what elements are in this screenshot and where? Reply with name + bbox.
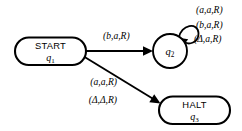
node-q1-state-subscript: 1	[51, 57, 55, 65]
node-q1-title: START	[35, 40, 66, 51]
node-q3-state-subscript: 3	[195, 116, 199, 124]
edge-label-q1-to-q3-first: (a,a,R)	[90, 76, 117, 88]
edge-q1-to-q3-arrowhead	[149, 94, 160, 103]
diagram-canvas: START q1 q2 HALT q3 (b,a,R) (a,a,R) (Δ,Δ…	[0, 0, 242, 131]
edge-label-q1-to-q3-second: (Δ,Δ,R)	[89, 94, 117, 106]
node-q3-title: HALT	[182, 99, 206, 110]
node-q3-halt[interactable]: HALT q3	[159, 97, 230, 125]
state-diagram: START q1 q2 HALT q3 (b,a,R) (a,a,R) (Δ,Δ…	[0, 0, 242, 131]
edge-label-q1-to-q2: (b,a,R)	[103, 30, 130, 42]
edge-label-q2-loop-first: (a,a,R)	[196, 4, 223, 16]
node-q2[interactable]: q2	[153, 34, 187, 68]
node-q1-start[interactable]: START q1	[15, 38, 86, 66]
edge-label-q2-loop-second: (b,a,R)	[196, 19, 223, 31]
edge-q1-to-q2-arrowhead	[143, 46, 153, 56]
edge-q1-to-q2	[86, 46, 153, 56]
edge-label-q2-loop-third: (Δ,a,R)	[194, 33, 221, 45]
node-q2-state-subscript: 2	[171, 51, 175, 59]
